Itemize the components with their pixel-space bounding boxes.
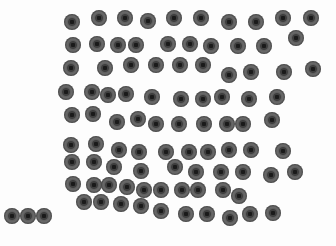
- washer: [97, 60, 113, 76]
- washer: [128, 37, 144, 53]
- washer: [110, 37, 126, 53]
- washer: [118, 86, 134, 102]
- washer: [214, 89, 230, 105]
- washer: [213, 164, 229, 180]
- washer: [36, 208, 52, 224]
- washer: [276, 64, 292, 80]
- washer: [219, 116, 235, 132]
- washer: [171, 116, 187, 132]
- washer: [173, 91, 189, 107]
- washer: [243, 142, 259, 158]
- washer: [109, 114, 125, 130]
- washer: [88, 136, 104, 152]
- washer: [188, 164, 204, 180]
- washer: [231, 188, 247, 204]
- washer: [241, 91, 257, 107]
- washer: [63, 137, 79, 153]
- washer: [133, 198, 149, 214]
- washer: [133, 163, 149, 179]
- washer: [76, 194, 92, 210]
- washer: [64, 107, 80, 123]
- washer: [221, 142, 237, 158]
- washer: [195, 57, 211, 73]
- washer: [130, 111, 146, 127]
- washer: [131, 144, 147, 160]
- washer: [269, 89, 285, 105]
- washer: [235, 116, 251, 132]
- washer: [288, 30, 304, 46]
- washer: [243, 64, 259, 80]
- washer: [113, 196, 129, 212]
- washer: [263, 167, 279, 183]
- washer: [275, 143, 291, 159]
- photo-scene: Top-down photo of dark grey rubber washe…: [0, 0, 336, 246]
- washer: [222, 210, 238, 226]
- washer: [93, 194, 109, 210]
- washer: [172, 57, 188, 73]
- washer: [65, 37, 81, 53]
- washer: [167, 159, 183, 175]
- washer: [242, 206, 258, 222]
- washer: [215, 182, 231, 198]
- washer: [86, 177, 102, 193]
- washer: [265, 205, 281, 221]
- washer: [178, 206, 194, 222]
- washer: [100, 87, 116, 103]
- washer: [264, 112, 280, 128]
- washer: [221, 14, 237, 30]
- washer: [84, 84, 100, 100]
- washer: [63, 60, 79, 76]
- washer: [195, 91, 211, 107]
- washer: [106, 159, 122, 175]
- washer: [160, 36, 176, 52]
- washer: [200, 144, 216, 160]
- washer: [89, 36, 105, 52]
- washer: [166, 10, 182, 26]
- washer: [117, 10, 133, 26]
- washer: [85, 106, 101, 122]
- washer: [123, 57, 139, 73]
- washer: [221, 67, 237, 83]
- washer: [65, 176, 81, 192]
- washer: [64, 154, 80, 170]
- washer: [111, 142, 127, 158]
- washer: [248, 14, 264, 30]
- washer: [256, 38, 272, 54]
- washer: [64, 14, 80, 30]
- washer: [4, 208, 20, 224]
- washer: [305, 61, 321, 77]
- washer: [230, 38, 246, 54]
- washer: [144, 89, 160, 105]
- washer: [182, 36, 198, 52]
- washer: [199, 206, 215, 222]
- washer: [148, 57, 164, 73]
- washer: [287, 164, 303, 180]
- washer: [196, 116, 212, 132]
- washer: [119, 179, 135, 195]
- washer: [153, 182, 169, 198]
- washer: [203, 38, 219, 54]
- washer: [174, 182, 190, 198]
- washer: [86, 154, 102, 170]
- washer: [158, 144, 174, 160]
- washer: [101, 177, 117, 193]
- washer: [303, 10, 319, 26]
- washer: [181, 144, 197, 160]
- washer: [140, 13, 156, 29]
- washer: [193, 10, 209, 26]
- washer: [235, 164, 251, 180]
- washer: [275, 10, 291, 26]
- washer: [190, 182, 206, 198]
- washer: [148, 116, 164, 132]
- washer: [91, 10, 107, 26]
- washer: [136, 182, 152, 198]
- washer: [153, 203, 169, 219]
- washer: [20, 208, 36, 224]
- washer: [58, 84, 74, 100]
